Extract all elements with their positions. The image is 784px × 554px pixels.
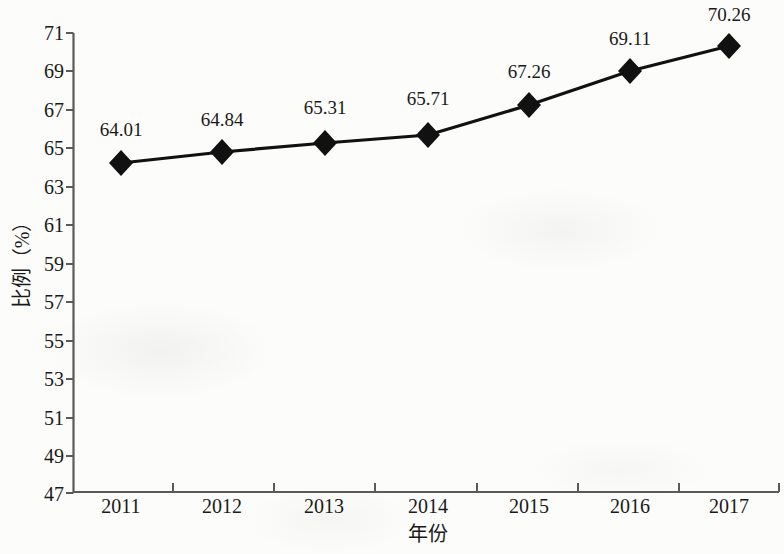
data-marker — [517, 92, 541, 118]
y-axis — [66, 33, 74, 493]
line-chart: 71 69 67 65 63 61 59 57 55 53 51 49 47 比… — [0, 0, 784, 554]
data-marker — [109, 150, 133, 176]
plot-area — [0, 0, 784, 554]
series-line — [121, 46, 729, 163]
data-marker — [618, 58, 642, 84]
data-marker — [416, 122, 440, 148]
x-axis — [74, 483, 780, 492]
data-marker — [717, 33, 741, 59]
data-marker — [210, 139, 234, 165]
y-axis-ticks — [66, 33, 74, 493]
x-axis-ticks — [173, 483, 779, 492]
data-marker — [313, 130, 337, 156]
